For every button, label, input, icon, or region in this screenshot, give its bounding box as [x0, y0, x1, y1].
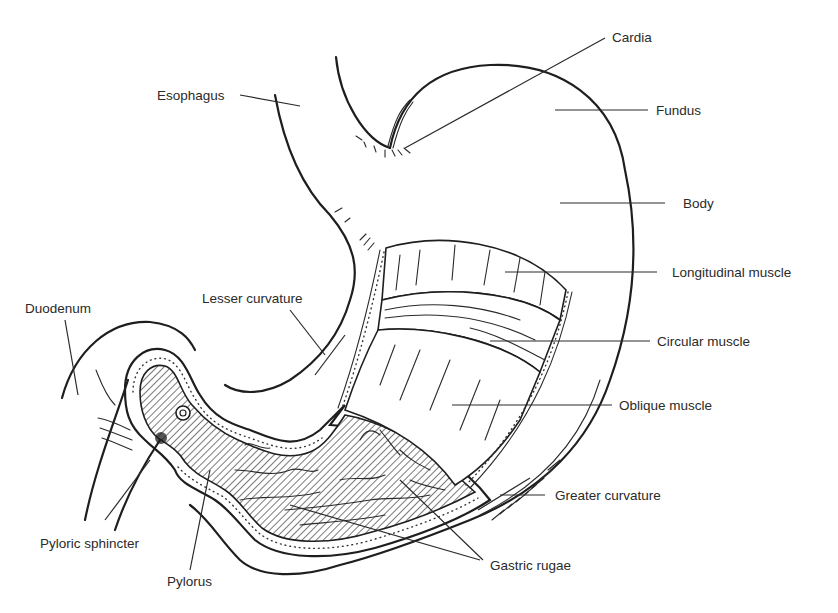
label-esophagus: Esophagus [157, 88, 225, 103]
label-fundus: Fundus [656, 103, 701, 118]
label-pyloric-sphincter: Pyloric sphincter [40, 536, 140, 551]
label-body: Body [683, 196, 714, 211]
label-circular-muscle: Circular muscle [657, 334, 750, 349]
label-pylorus: Pylorus [167, 574, 212, 589]
cardia-hatch [356, 136, 410, 157]
label-cardia: Cardia [612, 30, 652, 45]
label-oblique-muscle: Oblique muscle [619, 398, 712, 413]
label-gastric-rugae: Gastric rugae [490, 558, 571, 573]
label-greater-curvature: Greater curvature [555, 488, 661, 503]
label-longitudinal-muscle: Longitudinal muscle [672, 265, 791, 280]
stomach-diagram: Cardia Esophagus Fundus Body Longitudina… [0, 0, 838, 613]
label-duodenum: Duodenum [25, 301, 91, 316]
label-lesser-curvature: Lesser curvature [202, 291, 303, 306]
